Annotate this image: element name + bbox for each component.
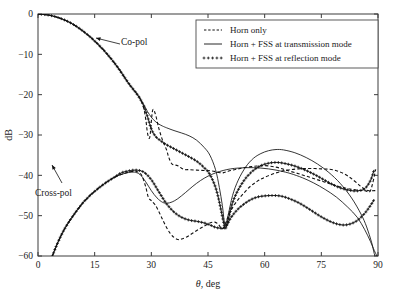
y-tick-label: −10: [18, 50, 33, 60]
x-tick-label: 15: [90, 260, 100, 270]
y-tick-label: −50: [18, 211, 33, 221]
x-tick-label: 75: [317, 260, 327, 270]
y-axis-title: dB: [3, 129, 14, 141]
x-tick-label: 30: [147, 260, 157, 270]
x-tick-label: 0: [36, 260, 41, 270]
y-tick-label: −30: [18, 130, 33, 140]
y-tick-label: 0: [28, 9, 33, 19]
radiation-pattern-chart: 0153045607590 0−10−20−30−40−50−60 Co-pol…: [0, 0, 395, 303]
x-tick-labels: 0153045607590: [36, 260, 383, 270]
y-tick-labels: 0−10−20−30−40−50−60: [18, 9, 33, 261]
legend-label: Horn only: [230, 25, 267, 35]
chart-container: 0153045607590 0−10−20−30−40−50−60 Co-pol…: [0, 0, 395, 303]
series-4: [52, 168, 377, 256]
x-tick-label: 60: [260, 260, 270, 270]
x-tick-label: 45: [203, 260, 213, 270]
annotation-label: Co-pol: [121, 37, 148, 47]
annotation-label: Cross-pol: [35, 188, 72, 198]
legend-label: Horn + FSS at reflection mode: [230, 53, 341, 63]
y-tick-label: −40: [18, 171, 33, 181]
y-tick-label: −20: [18, 90, 33, 100]
chart-legend: Horn onlyHorn + FSS at transmission mode…: [196, 20, 378, 68]
curve-annotations: Co-polCross-pol: [35, 37, 148, 198]
legend-label: Horn + FSS at transmission mode: [230, 39, 352, 49]
x-tick-label: 90: [373, 260, 383, 270]
series-5: [51, 169, 375, 258]
x-axis-title: θ, deg: [196, 278, 220, 289]
y-tick-label: −60: [18, 251, 33, 261]
